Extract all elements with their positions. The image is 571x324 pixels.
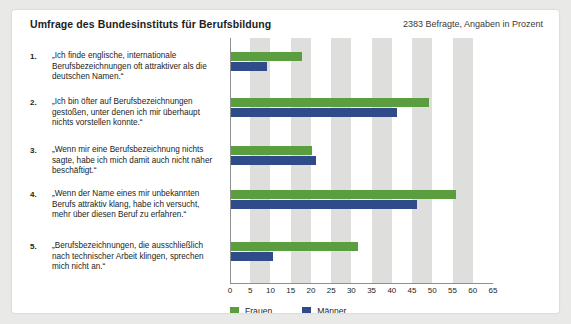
grid-band bbox=[372, 38, 392, 284]
question-number: 5. bbox=[30, 242, 37, 251]
grid-band bbox=[453, 38, 473, 284]
page-title: Umfrage des Bundesinstituts für Berufsbi… bbox=[30, 18, 271, 30]
question-text: „Berufsbezeichnungen, die ausschließlich… bbox=[52, 241, 214, 273]
bar-frauen-q5 bbox=[231, 242, 358, 251]
bar-männer-q5 bbox=[231, 252, 273, 261]
chart-card: Umfrage des Bundesinstituts für Berufsbi… bbox=[12, 10, 559, 313]
legend-label-frauen: Frauen bbox=[245, 306, 272, 313]
x-tick-35: 35 bbox=[367, 286, 376, 295]
x-tick-10: 10 bbox=[266, 286, 275, 295]
bar-frauen-q1 bbox=[231, 52, 302, 61]
question-number: 2. bbox=[30, 98, 37, 107]
legend-swatch-maenner-icon bbox=[302, 307, 311, 314]
x-tick-20: 20 bbox=[306, 286, 315, 295]
legend-item-frauen: Frauen bbox=[230, 306, 272, 313]
question-number: 4. bbox=[30, 190, 37, 199]
legend-item-maenner: Männer bbox=[302, 306, 346, 313]
bar-männer-q3 bbox=[231, 156, 316, 165]
x-tick-30: 30 bbox=[347, 286, 356, 295]
x-tick-40: 40 bbox=[387, 286, 396, 295]
grid-band bbox=[412, 38, 432, 284]
legend-label-maenner: Männer bbox=[317, 306, 346, 313]
x-axis-line bbox=[230, 283, 493, 284]
chart-header: Umfrage des Bundesinstituts für Berufsbi… bbox=[12, 10, 559, 38]
chart-subtitle: 2383 Befragte, Angaben in Prozent bbox=[403, 19, 543, 29]
x-tick-0: 0 bbox=[228, 286, 232, 295]
x-axis-ticks: 05101520253035404550556065 bbox=[230, 286, 510, 300]
x-tick-45: 45 bbox=[408, 286, 417, 295]
bar-männer-q1 bbox=[231, 62, 267, 71]
bar-frauen-q2 bbox=[231, 98, 429, 107]
bar-frauen-q4 bbox=[231, 190, 456, 199]
chart-body: 1.„Ich finde englische, internationale B… bbox=[12, 38, 559, 313]
question-text: „Ich finde englische, internationale Ber… bbox=[52, 51, 214, 83]
x-tick-25: 25 bbox=[327, 286, 336, 295]
x-tick-55: 55 bbox=[448, 286, 457, 295]
chart-legend: Frauen Männer bbox=[230, 304, 376, 313]
question-number: 3. bbox=[30, 146, 37, 155]
x-tick-15: 15 bbox=[286, 286, 295, 295]
question-text: „Wenn mir eine Berufsbezeichnung nichts … bbox=[52, 145, 214, 177]
legend-swatch-frauen-icon bbox=[230, 307, 239, 314]
question-text: „Wenn der Name eines mir unbekannten Ber… bbox=[52, 189, 214, 221]
y-axis-line bbox=[230, 38, 231, 284]
x-tick-50: 50 bbox=[428, 286, 437, 295]
question-label-column: 1.„Ich finde englische, internationale B… bbox=[12, 38, 218, 284]
bar-frauen-q3 bbox=[231, 146, 312, 155]
question-number: 1. bbox=[30, 52, 37, 61]
bar-männer-q2 bbox=[231, 108, 397, 117]
x-tick-60: 60 bbox=[468, 286, 477, 295]
x-tick-65: 65 bbox=[489, 286, 498, 295]
x-tick-5: 5 bbox=[248, 286, 252, 295]
plot-area bbox=[230, 38, 493, 284]
bar-männer-q4 bbox=[231, 200, 417, 209]
question-text: „Ich bin öfter auf Berufsbezeichnungen g… bbox=[52, 97, 214, 129]
